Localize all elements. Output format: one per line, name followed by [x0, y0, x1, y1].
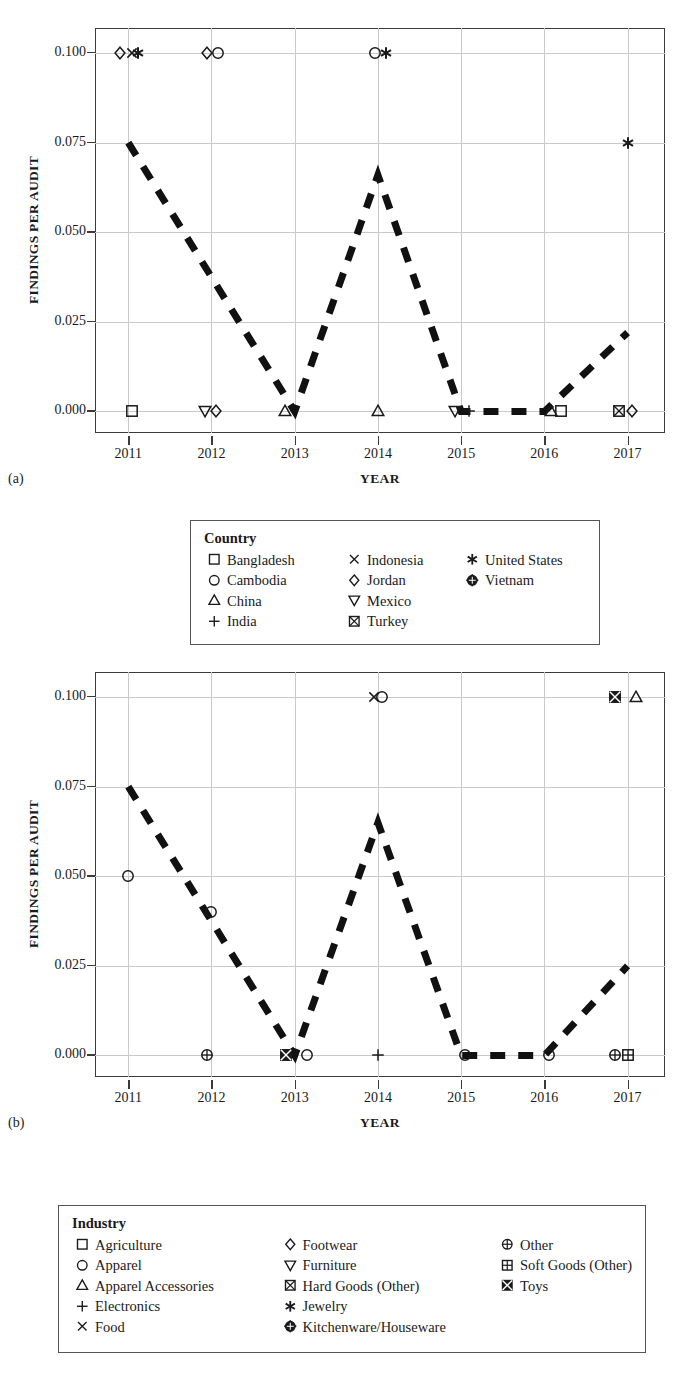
x-axis-tick-mark [628, 1080, 629, 1089]
legend-item: Food [72, 1317, 280, 1338]
industry-legend: Industry AgricultureApparelApparel Acces… [58, 1205, 646, 1353]
x-axis-tick-mark [544, 436, 545, 445]
x-axis-tick-label: 2015 [433, 446, 489, 462]
y-axis-tick-mark [87, 875, 95, 876]
y-axis-tick-mark [87, 52, 95, 53]
circle-plus-filled-icon [280, 1317, 301, 1337]
y-axis-tick-label: 0.075 [37, 778, 86, 794]
y-axis-tick-mark [87, 142, 95, 143]
cross-icon [344, 550, 365, 570]
y-axis-tick-mark [87, 410, 95, 411]
legend-column: United StatesVietnam [462, 550, 563, 632]
legend-item: India [204, 612, 344, 633]
legend-columns: BangladeshCambodiaChinaIndiaIndonesiaJor… [204, 550, 586, 632]
y-axis-tick-mark [87, 1054, 95, 1055]
x-axis-tick-mark [461, 436, 462, 445]
x-axis-tick-label: 2017 [600, 1090, 656, 1106]
legend-item: Apparel [72, 1256, 280, 1277]
legend-column: FootwearFurnitureHard Goods (Other)Jewel… [280, 1235, 498, 1338]
triangle-down-icon [280, 1256, 301, 1276]
y-axis-tick-label: 0.100 [37, 44, 86, 60]
legend-item-label: Other [518, 1237, 553, 1254]
legend-item: Vietnam [462, 571, 563, 592]
legend-item: Footwear [280, 1235, 498, 1256]
y-axis-tick-mark [87, 321, 95, 322]
legend-item: Apparel Accessories [72, 1276, 280, 1297]
y-axis-tick-label: 0.000 [37, 402, 86, 418]
circle-icon [204, 571, 225, 591]
asterisk-icon [280, 1297, 301, 1317]
legend-column: BangladeshCambodiaChinaIndia [204, 550, 344, 632]
y-axis-title: FINDINGS PER AUDIT [25, 27, 41, 432]
legend-item-label: China [225, 593, 262, 610]
legend-item-label: Electronics [93, 1298, 160, 1315]
y-axis-tick-mark [87, 231, 95, 232]
square-grid-icon [497, 1256, 518, 1276]
legend-item-label: Agriculture [93, 1237, 162, 1254]
panel-b: 0.0000.0250.0500.0750.100201120122013201… [0, 650, 699, 1210]
legend-item: Soft Goods (Other) [497, 1256, 632, 1277]
triangle-up-icon [204, 591, 225, 611]
legend-item: Jordan [344, 571, 462, 592]
square-icon [72, 1235, 93, 1255]
diamond-icon [280, 1235, 301, 1255]
x-axis-tick-mark [211, 436, 212, 445]
plus-icon [72, 1297, 93, 1317]
y-axis-tick-label: 0.100 [37, 688, 86, 704]
legend-item: United States [462, 550, 563, 571]
y-axis-tick-mark [87, 696, 95, 697]
legend-item-label: Cambodia [225, 572, 287, 589]
legend-item-label: Kitchenware/Houseware [301, 1319, 446, 1336]
legend-item-label: Bangladesh [225, 552, 295, 569]
legend-item: Turkey [344, 612, 462, 633]
x-axis-tick-mark [628, 436, 629, 445]
x-axis-tick-label: 2014 [350, 1090, 406, 1106]
x-axis-tick-mark [211, 1080, 212, 1089]
legend-item-label: United States [483, 552, 563, 569]
x-axis-tick-mark [378, 436, 379, 445]
circle-icon [72, 1256, 93, 1276]
diamond-icon [344, 571, 365, 591]
x-axis-tick-mark [128, 436, 129, 445]
x-axis-tick-label: 2013 [267, 1090, 323, 1106]
triangle-down-icon [344, 591, 365, 611]
chart-b-plot-area: 0.0000.0250.0500.0750.100201120122013201… [0, 650, 699, 1210]
legend-item: Toys [497, 1276, 632, 1297]
legend-item: Hard Goods (Other) [280, 1276, 498, 1297]
circle-plus-icon [497, 1235, 518, 1255]
legend-title-industry: Industry [72, 1215, 632, 1232]
x-axis-tick-mark [295, 436, 296, 445]
legend-column: IndonesiaJordanMexicoTurkey [344, 550, 462, 632]
x-axis-tick-label: 2013 [267, 446, 323, 462]
x-axis-tick-label: 2014 [350, 446, 406, 462]
y-axis-tick-label: 0.050 [37, 223, 86, 239]
legend-item-label: Food [93, 1319, 125, 1336]
x-axis-tick-mark [544, 1080, 545, 1089]
panel-sublabel: (a) [8, 471, 24, 487]
legend-item-label: Jordan [365, 572, 406, 589]
x-axis-tick-label: 2016 [516, 1090, 572, 1106]
y-axis-tick-label: 0.025 [37, 957, 86, 973]
legend-item: Jewelry [280, 1297, 498, 1318]
legend-item-label: Toys [518, 1278, 548, 1295]
cross-icon [72, 1317, 93, 1337]
country-legend: Country BangladeshCambodiaChinaIndiaIndo… [190, 520, 600, 645]
x-axis-tick-label: 2016 [516, 446, 572, 462]
x-axis-tick-label: 2012 [183, 446, 239, 462]
legend-item: Agriculture [72, 1235, 280, 1256]
legend-item: Other [497, 1235, 632, 1256]
x-axis-tick-mark [461, 1080, 462, 1089]
legend-item-label: Apparel [93, 1257, 142, 1274]
x-axis-title: YEAR [95, 471, 665, 487]
plus-icon [204, 612, 225, 632]
legend-item-label: Soft Goods (Other) [518, 1257, 632, 1274]
legend-item-label: Mexico [365, 593, 411, 610]
legend-item-label: Hard Goods (Other) [301, 1278, 420, 1295]
legend-column: AgricultureApparelApparel AccessoriesEle… [72, 1235, 280, 1338]
legend-title-country: Country [204, 530, 586, 547]
circle-plus-filled-icon [462, 571, 483, 591]
legend-item: Cambodia [204, 571, 344, 592]
square-cross-filled-icon [497, 1276, 518, 1296]
x-axis-tick-label: 2015 [433, 1090, 489, 1106]
x-axis-title: YEAR [95, 1115, 665, 1131]
